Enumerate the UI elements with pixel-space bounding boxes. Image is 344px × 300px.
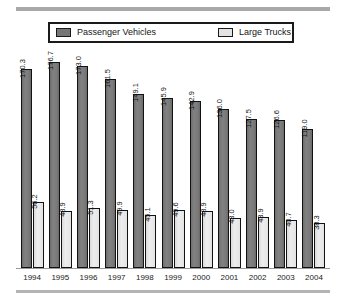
bar-large-trucks-1999[interactable]: 49.6 [174,210,185,268]
bar-passenger-vehicles-1997[interactable]: 161.5 [105,79,116,268]
bar-group-2002: 127.543.9 [244,52,272,268]
plot-area: 170.356.2176.748.9173.051.3161.549.9149.… [16,52,330,268]
bar-slot: 56.2 [33,52,44,268]
bar-slot: 40.7 [286,52,297,268]
bar-value-label: 43.0 [228,209,236,224]
bar-slot: 142.9 [190,52,201,268]
legend-label-passenger-vehicles: Passenger Vehicles [77,28,156,37]
bar-slot: 119.0 [302,52,313,268]
bar-passenger-vehicles-1998[interactable]: 149.1 [133,94,144,268]
bottom-divider-rule [16,290,330,293]
x-tick-label-2002: 2002 [244,271,272,285]
bar-group-1999: 145.949.6 [159,52,187,268]
bar-slot: 38.3 [314,52,325,268]
bar-group-1994: 170.356.2 [18,52,46,268]
chart-figure: Passenger Vehicles Large Trucks 170.356.… [0,0,344,300]
bar-passenger-vehicles-2002[interactable]: 127.5 [246,119,257,268]
bar-value-label: 48.9 [200,203,208,218]
bar-slot: 126.6 [274,52,285,268]
x-axis-line [16,268,330,269]
bar-slot: 45.1 [145,52,156,268]
x-tick-label-1994: 1994 [18,271,46,285]
bar-passenger-vehicles-1994[interactable]: 170.3 [21,69,32,268]
chart-legend: Passenger Vehicles Large Trucks [48,22,294,43]
bar-value-label: 145.9 [160,87,168,106]
bar-slot: 161.5 [105,52,116,268]
bar-slot: 43.9 [258,52,269,268]
bar-group-1996: 173.051.3 [74,52,102,268]
bar-large-trucks-1995[interactable]: 48.9 [61,211,72,268]
bar-value-label: 45.1 [143,207,151,222]
bar-large-trucks-1997[interactable]: 49.9 [117,210,128,268]
legend-entry-passenger-vehicles: Passenger Vehicles [56,28,156,37]
bar-slot: 49.9 [117,52,128,268]
bar-value-label: 149.1 [131,84,139,103]
bar-slot: 170.3 [21,52,32,268]
legend-label-large-trucks: Large Trucks [239,28,291,37]
bar-value-label: 40.7 [284,212,292,227]
bar-slot: 176.7 [49,52,60,268]
bar-passenger-vehicles-2000[interactable]: 142.9 [190,101,201,268]
bar-passenger-vehicles-2004[interactable]: 119.0 [302,129,313,268]
x-tick-label-1997: 1997 [103,271,131,285]
bar-slot: 145.9 [162,52,173,268]
bar-value-label: 56.2 [31,194,39,209]
bar-passenger-vehicles-1995[interactable]: 176.7 [49,62,60,268]
bar-large-trucks-2003[interactable]: 40.7 [286,220,297,268]
bar-value-label: 126.6 [272,110,280,129]
bar-slot: 136.0 [218,52,229,268]
x-tick-label-1998: 1998 [131,271,159,285]
bar-group-2000: 142.948.9 [187,52,215,268]
bar-large-trucks-1996[interactable]: 51.3 [89,208,100,268]
bar-group-1995: 176.748.9 [46,52,74,268]
bar-slot: 49.6 [174,52,185,268]
x-tick-label-2004: 2004 [300,271,328,285]
bar-large-trucks-1994[interactable]: 56.2 [33,202,44,268]
bar-passenger-vehicles-1996[interactable]: 173.0 [77,66,88,268]
top-divider-rule [16,7,330,11]
bar-large-trucks-2000[interactable]: 48.9 [202,211,213,268]
legend-swatch-icon-large-trucks [218,28,233,37]
bar-value-label: 136.0 [216,99,224,118]
x-tick-label-1999: 1999 [159,271,187,285]
bar-slot: 127.5 [246,52,257,268]
legend-entry-large-trucks: Large Trucks [218,28,291,37]
bar-passenger-vehicles-2003[interactable]: 126.6 [274,120,285,268]
x-tick-label-2003: 2003 [272,271,300,285]
legend-swatch-icon-passenger-vehicles [56,28,71,37]
bar-value-label: 173.0 [75,56,83,75]
bar-value-label: 176.7 [47,51,55,70]
bar-large-trucks-2001[interactable]: 43.0 [230,218,241,268]
bar-large-trucks-2004[interactable]: 38.3 [314,223,325,268]
bar-value-label: 161.5 [103,69,111,88]
x-tick-label-1995: 1995 [46,271,74,285]
bar-group-1998: 149.145.1 [131,52,159,268]
bar-group-2003: 126.640.7 [272,52,300,268]
bar-group-1997: 161.549.9 [103,52,131,268]
bar-groups: 170.356.2176.748.9173.051.3161.549.9149.… [16,52,330,268]
bar-passenger-vehicles-1999[interactable]: 145.9 [162,98,173,268]
bar-large-trucks-1998[interactable]: 45.1 [145,215,156,268]
bar-slot: 51.3 [89,52,100,268]
x-axis-tick-labels: 1994199519961997199819992000200120022003… [16,271,330,285]
bar-slot: 173.0 [77,52,88,268]
bar-group-2004: 119.038.3 [300,52,328,268]
bar-value-label: 170.3 [19,59,27,78]
bar-large-trucks-2002[interactable]: 43.9 [258,217,269,268]
bar-slot: 149.1 [133,52,144,268]
x-tick-label-2000: 2000 [187,271,215,285]
bar-value-label: 49.6 [172,202,180,217]
bar-value-label: 119.0 [300,119,308,137]
bar-passenger-vehicles-2001[interactable]: 136.0 [218,109,229,268]
bar-value-label: 48.9 [59,203,67,218]
bar-slot: 48.9 [61,52,72,268]
bar-slot: 43.0 [230,52,241,268]
x-tick-label-1996: 1996 [74,271,102,285]
bar-value-label: 49.9 [115,201,123,216]
bar-group-2001: 136.043.0 [215,52,243,268]
bar-value-label: 38.3 [312,215,320,230]
bar-slot: 48.9 [202,52,213,268]
bar-value-label: 51.3 [87,200,95,215]
bar-value-label: 142.9 [188,91,196,110]
x-tick-label-2001: 2001 [215,271,243,285]
